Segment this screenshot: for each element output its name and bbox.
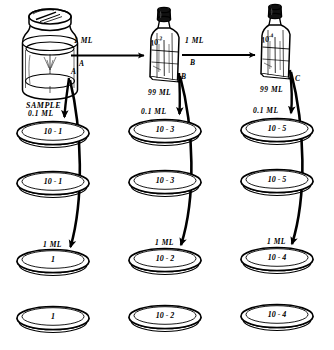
arrow2-letter-label: B xyxy=(190,58,196,67)
bottle-10-4-face-label: 10-4 xyxy=(260,32,274,45)
branch-letter-a: A xyxy=(71,67,77,76)
dish-10-1-top-label: 10 - 1 xyxy=(23,127,83,136)
colB-bottom-volume-label: 1 ML xyxy=(155,238,174,247)
bottle-10-4-volume: 99 ML xyxy=(260,85,283,94)
colC-bottom-volume-label: 1 ML xyxy=(267,237,286,246)
bottle-10-2-volume: 99 ML xyxy=(148,88,171,97)
dish-10-1-bottom-label: 10 - 1 xyxy=(23,177,83,186)
arrow1-letter-label: A xyxy=(79,59,85,68)
dish-10-3-top-label: 10 - 3 xyxy=(135,125,195,134)
curve-a-long xyxy=(70,80,80,247)
colC-top-volume-label: 0.1 ML xyxy=(253,106,279,115)
dish-10-4-bottom-label: 10 - 4 xyxy=(247,310,307,319)
colA-bottom-volume-label: 1 ML xyxy=(43,240,62,249)
dish-10-2-top-label: 10 - 2 xyxy=(135,254,195,263)
dish-1-top-label: 1 xyxy=(23,255,83,264)
branch-letter-b: B xyxy=(181,72,187,81)
dish-10-2-bottom-label: 10 - 2 xyxy=(135,311,195,320)
dish-10-3-bottom-label: 10 - 3 xyxy=(135,176,195,185)
dish-10-4-top-label: 10 - 4 xyxy=(247,253,307,262)
curve-b-long xyxy=(180,76,191,245)
dish-1-bottom-label: 1 xyxy=(23,312,83,321)
colB-top-volume-label: 0.1 ML xyxy=(141,107,167,116)
bottle-10-2-face-label: 10-2 xyxy=(149,35,163,48)
colA-top-volume-label: 0.1 ML xyxy=(28,109,54,118)
arrow2-volume-label: 1 ML xyxy=(185,36,204,45)
dish-10-5-bottom-label: 10 - 5 xyxy=(247,175,307,184)
sample-jar xyxy=(23,9,78,100)
dish-10-5-top-label: 10 - 5 xyxy=(247,124,307,133)
arrow1-volume-label: 1 ML xyxy=(74,36,93,45)
branch-letter-c: C xyxy=(295,74,301,83)
